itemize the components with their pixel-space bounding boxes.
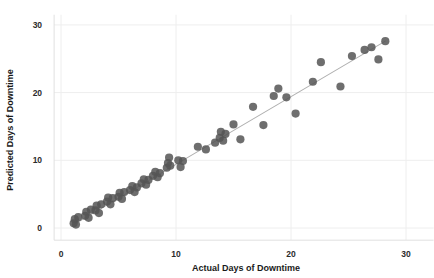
scatter-point	[367, 43, 375, 51]
scatter-point	[348, 52, 356, 60]
x-tick-label: 0	[59, 249, 64, 259]
y-tick-label: 30	[33, 20, 43, 30]
scatter-point	[317, 58, 325, 66]
y-tick-label: 10	[33, 155, 43, 165]
scatter-point	[156, 169, 164, 177]
x-tick-label: 20	[286, 249, 296, 259]
scatter-point	[165, 153, 173, 161]
scatter-point	[74, 213, 82, 221]
scatter-point	[202, 145, 210, 153]
scatter-point	[95, 209, 103, 217]
scatter-point	[274, 84, 282, 92]
chart-canvas: 0102030 0102030 Actual Days of Downtime …	[0, 0, 434, 278]
y-tick-label: 0	[37, 223, 42, 233]
y-tick-label: 20	[33, 88, 43, 98]
scatter-point	[221, 130, 229, 138]
y-axis-title: Predicted Days of Downtime	[5, 69, 15, 191]
scatter-point	[259, 121, 267, 129]
scatter-point	[282, 93, 290, 101]
scatter-point	[72, 221, 80, 229]
scatter-point	[381, 37, 389, 45]
scatter-point	[336, 82, 344, 90]
x-axis-title: Actual Days of Downtime	[192, 263, 300, 273]
x-tick-label: 10	[171, 249, 181, 259]
scatter-point	[236, 135, 244, 143]
x-tick-label: 30	[401, 249, 411, 259]
scatter-point	[374, 55, 382, 63]
scatter-plot: 0102030 0102030 Actual Days of Downtime …	[0, 0, 434, 278]
scatter-point	[179, 157, 187, 165]
scatter-point	[85, 214, 93, 222]
scatter-point	[270, 92, 278, 100]
scatter-point	[194, 143, 202, 151]
scatter-point	[166, 162, 174, 170]
scatter-point	[249, 103, 257, 111]
scatter-point	[292, 109, 300, 117]
scatter-point	[229, 120, 237, 128]
scatter-point	[309, 78, 317, 86]
